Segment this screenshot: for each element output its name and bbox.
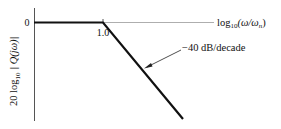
- y-axis-label-post: | Q(jω)|: [8, 37, 20, 73]
- y-axis-label-pre: 20 log: [8, 79, 19, 106]
- x-axis-label-main: log: [217, 17, 231, 28]
- bode-magnitude-chart: 0 1.0 log10(ω/ωn) 20 log10 | Q(jω)| −40 …: [0, 0, 281, 129]
- x-tick-label-corner: 1.0: [97, 27, 110, 38]
- x-axis-label-end: ): [262, 17, 266, 29]
- annotation-arrowhead-icon: [144, 63, 153, 69]
- y-axis-label: 20 log10 | Q(jω)|: [8, 37, 22, 106]
- annotation-arrow-line: [147, 50, 181, 67]
- y-tick-label-zero: 0: [25, 17, 30, 28]
- x-axis-label: log10(ω/ωn): [217, 17, 266, 31]
- x-axis-label-rest: (ω/ω: [237, 17, 258, 29]
- slope-annotation: −40 dB/decade: [182, 42, 246, 53]
